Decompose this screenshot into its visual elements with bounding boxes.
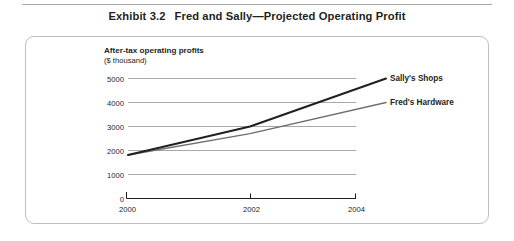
y-tick-label-0: 0: [98, 195, 124, 204]
x-tick-label-2002: 2002: [243, 205, 260, 214]
y-tick-label-3000: 3000: [98, 123, 124, 132]
y-tick-label-5000: 5000: [98, 75, 124, 84]
line-freds-hardware: [128, 103, 386, 156]
axes: [127, 192, 357, 199]
series-freds-hardware: [128, 103, 386, 156]
x-tick-label-2000: 2000: [119, 205, 136, 214]
exhibit-figure: Exhibit 3.2Fred and Sally—Projected Oper…: [0, 0, 514, 241]
y-tick-label-4000: 4000: [98, 99, 124, 108]
x-tick-label-2004: 2004: [348, 205, 365, 214]
gridlines: [128, 79, 356, 175]
line-sallys-shops: [128, 79, 386, 156]
series-label-sallys-shops: Sally's Shops: [390, 74, 443, 83]
series-label-freds-hardware: Fred's Hardware: [390, 98, 454, 107]
y-tick-label-1000: 1000: [98, 171, 124, 180]
series-sallys-shops: [128, 79, 386, 156]
y-tick-label-2000: 2000: [98, 147, 124, 156]
